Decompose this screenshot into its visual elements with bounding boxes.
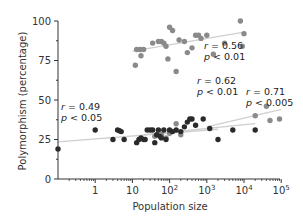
svg-text:r = 0.71: r = 0.71 bbox=[246, 86, 285, 97]
data-point-grey-top bbox=[163, 44, 168, 49]
annotation-1: r = 0.49p < 0.05 bbox=[60, 101, 102, 123]
data-point-black bbox=[142, 137, 147, 142]
data-point-black bbox=[193, 123, 198, 128]
svg-text:r = 0.49: r = 0.49 bbox=[61, 101, 100, 112]
data-point-black bbox=[173, 127, 178, 132]
y-tick-label: 25 bbox=[38, 134, 51, 145]
y-ticks: 0255075100 bbox=[32, 16, 58, 185]
annotation-3: r = 0.71p < 0.005 bbox=[245, 86, 293, 108]
annotation-4: r = 0.56p < 0.01 bbox=[203, 40, 245, 62]
data-point-grey-top bbox=[198, 36, 203, 41]
data-point-black bbox=[178, 129, 183, 134]
data-point-black bbox=[200, 116, 205, 121]
svg-text:r = 0.62: r = 0.62 bbox=[197, 75, 236, 86]
x-tick-label: 103 bbox=[198, 184, 215, 196]
data-point-grey-top bbox=[170, 28, 175, 33]
data-point-grey-right bbox=[252, 113, 257, 118]
svg-text:r = 0.56: r = 0.56 bbox=[204, 40, 243, 51]
x-axis-title: Population size bbox=[132, 201, 207, 212]
y-tick-label: 100 bbox=[32, 16, 51, 27]
data-point-black bbox=[161, 127, 166, 132]
svg-text:p < 0.005: p < 0.005 bbox=[245, 97, 293, 108]
data-point-grey-top bbox=[238, 18, 243, 23]
svg-text:p < 0.05: p < 0.05 bbox=[60, 112, 102, 123]
x-tick-label: 102 bbox=[161, 184, 178, 196]
data-point-black bbox=[215, 137, 220, 142]
y-tick-label: 50 bbox=[38, 95, 51, 106]
svg-text:p < 0.01: p < 0.01 bbox=[203, 51, 245, 62]
svg-text:p < 0.01: p < 0.01 bbox=[196, 86, 238, 97]
data-point-black bbox=[163, 137, 168, 142]
data-point-grey-right bbox=[277, 116, 282, 121]
data-point-grey-top bbox=[241, 31, 246, 36]
data-points bbox=[55, 18, 282, 151]
data-point-grey-top bbox=[204, 33, 209, 38]
data-point-black bbox=[159, 135, 164, 140]
data-point-black bbox=[182, 124, 187, 129]
data-point-black bbox=[119, 129, 124, 134]
data-point-grey-top bbox=[133, 63, 138, 68]
data-point-grey-top bbox=[173, 69, 178, 74]
data-point-black bbox=[121, 137, 126, 142]
scatter-chart: 0255075100 110102103104105 Population si… bbox=[0, 0, 303, 224]
y-axis-title: Polymorphism (percentage) bbox=[17, 32, 28, 171]
data-point-black bbox=[230, 127, 235, 132]
data-point-black bbox=[152, 140, 157, 145]
x-tick-label: 1 bbox=[92, 185, 98, 196]
x-ticks: 110102103104105 bbox=[69, 179, 290, 196]
data-point-grey-top bbox=[176, 37, 181, 42]
data-point-grey-right bbox=[267, 118, 272, 123]
data-point-grey-top bbox=[138, 53, 143, 58]
y-tick-label: 0 bbox=[45, 174, 51, 185]
y-tick-label: 75 bbox=[38, 55, 51, 66]
data-point-black bbox=[93, 127, 98, 132]
data-point-black bbox=[156, 127, 161, 132]
x-tick-label: 104 bbox=[235, 184, 253, 196]
data-point-grey-top bbox=[189, 45, 194, 50]
annotation-2: r = 0.62p < 0.01 bbox=[196, 75, 238, 97]
x-tick-label: 105 bbox=[273, 184, 290, 196]
data-point-black bbox=[207, 126, 212, 131]
data-point-black bbox=[189, 116, 194, 121]
data-point-grey-top bbox=[182, 39, 187, 44]
data-point-grey-top bbox=[165, 56, 170, 61]
data-point-grey-mid bbox=[173, 121, 178, 126]
data-point-grey-top bbox=[185, 50, 190, 55]
data-point-black bbox=[252, 127, 257, 132]
data-point-black bbox=[110, 137, 115, 142]
x-tick-label: 10 bbox=[126, 185, 139, 196]
data-point-grey-top bbox=[141, 47, 146, 52]
data-point-grey-top bbox=[150, 40, 155, 45]
data-point-black bbox=[150, 127, 155, 132]
